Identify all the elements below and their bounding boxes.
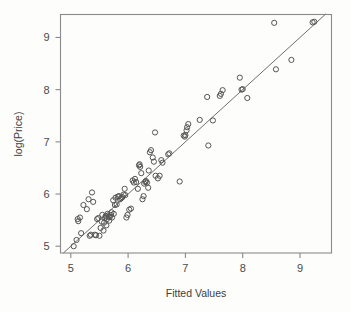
data-point (210, 118, 215, 123)
data-point (139, 171, 144, 176)
scatter-plot: 56789 56789 Fitted Values log(Price) (0, 0, 350, 312)
y-axis-title: log(Price) (12, 112, 24, 157)
data-point (89, 190, 94, 195)
data-point (245, 95, 250, 100)
y-tick-label: 9 (43, 31, 49, 43)
data-point (152, 130, 157, 135)
data-point (71, 244, 76, 249)
data-point (186, 122, 191, 127)
data-point (205, 94, 210, 99)
x-tick-labels: 56789 (68, 262, 303, 274)
data-point (237, 75, 242, 80)
data-point (272, 20, 277, 25)
y-tick-label: 5 (43, 240, 49, 252)
data-point (141, 194, 146, 199)
chart-screenshot: 56789 56789 Fitted Values log(Price) (0, 0, 350, 312)
y-axis-ticks (56, 37, 61, 246)
x-axis-title: Fitted Values (166, 287, 227, 299)
data-point (206, 143, 211, 148)
data-point (135, 186, 140, 191)
y-tick-label: 8 (43, 84, 49, 96)
y-tick-label: 7 (43, 136, 49, 148)
data-point (185, 125, 190, 130)
data-point (84, 207, 89, 212)
data-point (146, 185, 151, 190)
x-tick-label: 6 (125, 262, 131, 274)
data-point (91, 199, 96, 204)
data-point (79, 231, 84, 236)
y-tick-label: 6 (43, 188, 49, 200)
data-point (146, 168, 151, 173)
data-point (140, 197, 145, 202)
y-tick-labels: 56789 (43, 31, 49, 252)
x-axis-ticks (71, 253, 300, 258)
data-point (197, 117, 202, 122)
data-point (128, 206, 133, 211)
data-point (289, 57, 294, 62)
x-tick-label: 7 (182, 262, 188, 274)
x-tick-label: 8 (240, 262, 246, 274)
data-point (273, 67, 278, 72)
data-point (122, 186, 127, 191)
x-tick-label: 9 (297, 262, 303, 274)
data-point (177, 179, 182, 184)
x-tick-label: 5 (68, 262, 74, 274)
